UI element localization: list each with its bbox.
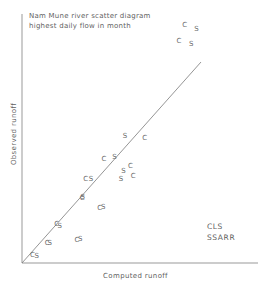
- chart-title-block: Nam Mune river scatter diagram highest d…: [29, 11, 151, 31]
- plot-axes-svg: [0, 0, 271, 287]
- data-point-cls: C: [131, 173, 136, 180]
- one-to-one-reference-line: [22, 62, 201, 263]
- data-point-ssarr: S: [101, 204, 106, 211]
- data-point-ssarr: S: [89, 176, 94, 183]
- data-point-ssarr: S: [81, 193, 86, 200]
- data-point-ssarr: S: [78, 235, 83, 242]
- data-point-ssarr: S: [194, 25, 199, 32]
- legend-entry-ssarr: SSARR: [207, 233, 235, 244]
- data-point-ssarr: S: [189, 40, 194, 47]
- data-point-ssarr: S: [35, 252, 40, 259]
- data-point-ssarr: S: [57, 223, 62, 230]
- data-point-ssarr: S: [119, 175, 124, 182]
- data-point-ssarr: S: [121, 167, 126, 174]
- data-point-cls: C: [128, 162, 133, 169]
- chart-title: Nam Mune river scatter diagram: [29, 11, 151, 21]
- scatter-diagram-figure: Nam Mune river scatter diagram highest d…: [0, 0, 271, 287]
- chart-subtitle: highest daily flow in month: [29, 21, 151, 31]
- data-point-cls: C: [142, 134, 147, 141]
- data-point-ssarr: S: [48, 239, 53, 246]
- data-point-cls: C: [102, 156, 107, 163]
- data-point-cls: C: [176, 38, 181, 45]
- x-axis-label: Computed runoff: [0, 272, 271, 280]
- data-point-ssarr: S: [112, 154, 117, 161]
- y-axis-label: Observed runoff: [10, 84, 18, 184]
- data-point-cls: C: [182, 22, 187, 29]
- legend: CLS SSARR: [207, 222, 235, 243]
- legend-entry-cls: CLS: [207, 222, 235, 233]
- data-point-cls: C: [83, 175, 88, 182]
- data-point-ssarr: S: [123, 133, 128, 140]
